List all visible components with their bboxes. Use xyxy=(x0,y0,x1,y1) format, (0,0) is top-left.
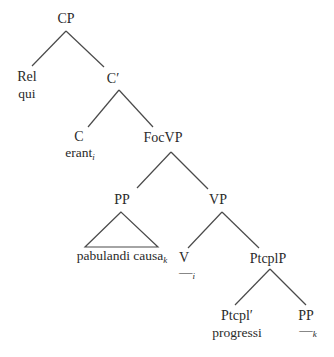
node-v: V xyxy=(179,251,189,265)
edge-cbar-focvp xyxy=(119,90,153,127)
node-vp: VP xyxy=(209,193,227,207)
tree-edges xyxy=(0,0,334,357)
node-cbar: C′ xyxy=(107,72,119,86)
edge-vp-v xyxy=(188,212,222,248)
node-v-trace: —i xyxy=(179,265,195,281)
index-k: k xyxy=(163,255,167,265)
node-ptcplbar: Ptcpl′ xyxy=(221,309,253,323)
edge-cp-rel xyxy=(32,31,66,66)
index-i: i xyxy=(192,271,195,281)
edge-ptcplp-pp xyxy=(270,269,306,305)
node-pp2: PP xyxy=(298,309,314,323)
index-i: i xyxy=(92,152,95,162)
node-erant: eranti xyxy=(65,146,95,162)
edge-cbar-c xyxy=(88,90,119,127)
edge-ptcplp-ptcplbar xyxy=(235,269,270,305)
node-c: C xyxy=(74,130,83,144)
node-pp2-trace: —k xyxy=(299,323,317,339)
pp-triangle xyxy=(85,212,158,247)
trace-dash: — xyxy=(179,264,193,279)
edge-vp-ptcplp xyxy=(222,212,259,248)
trace-dash: — xyxy=(299,322,313,337)
edge-focvp-vp xyxy=(171,152,208,189)
node-pabulandi-causa: pabulandi causak xyxy=(77,249,168,265)
node-qui: qui xyxy=(18,87,35,101)
edge-cp-cbar xyxy=(66,31,104,67)
node-pp: PP xyxy=(114,193,130,207)
node-cp: CP xyxy=(57,12,74,26)
index-k: k xyxy=(313,329,317,339)
edge-focvp-pp xyxy=(137,152,171,188)
node-progressi: progressi xyxy=(212,326,262,340)
pabulandi-label: pabulandi causa xyxy=(77,248,164,263)
node-rel: Rel xyxy=(17,70,36,84)
erant-label: erant xyxy=(65,145,92,160)
node-focvp: FocVP xyxy=(144,131,183,145)
node-ptcplp: PtcplP xyxy=(250,252,287,266)
